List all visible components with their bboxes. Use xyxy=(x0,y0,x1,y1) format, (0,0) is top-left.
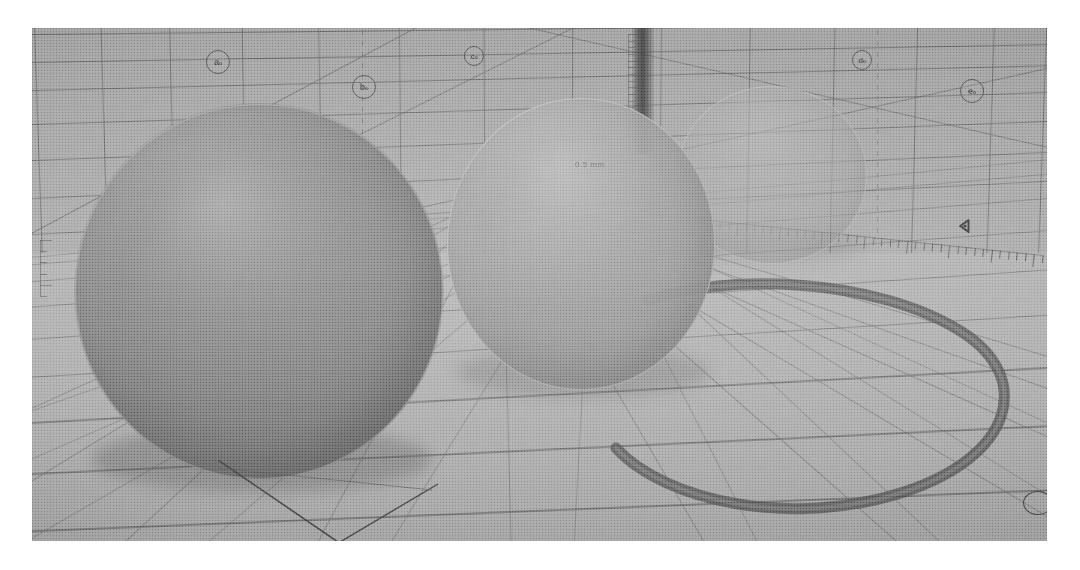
photograph: 0.5 mm a₀b₀c₀d₀e₀ xyxy=(32,28,1047,541)
screenshot-root: 0.5 mm a₀b₀c₀d₀e₀ xyxy=(0,0,1080,570)
vignette xyxy=(32,28,1047,541)
